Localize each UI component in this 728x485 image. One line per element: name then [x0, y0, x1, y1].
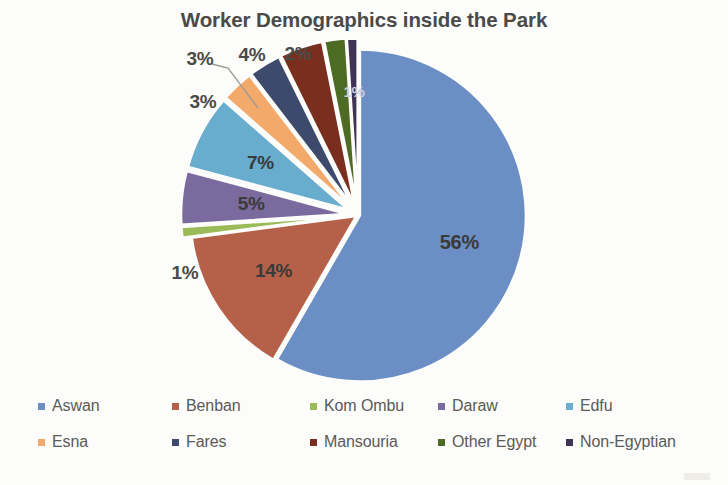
- legend-swatch-icon: [438, 403, 445, 410]
- legend-swatch-icon: [566, 439, 573, 446]
- slice-value-label: 2%: [285, 43, 312, 65]
- legend-item-mansouria[interactable]: Mansouria: [310, 430, 398, 454]
- legend-label: Non-Egyptian: [580, 433, 676, 451]
- legend-item-daraw[interactable]: Daraw: [438, 394, 498, 418]
- legend-item-edfu[interactable]: Edfu: [566, 394, 613, 418]
- slice-value-label: 1%: [172, 262, 199, 284]
- pie-chart-figure: Worker Demographics inside the Park 56%1…: [0, 0, 728, 485]
- slice-value-label: 7%: [247, 152, 274, 174]
- legend-swatch-icon: [172, 439, 179, 446]
- legend-item-fares[interactable]: Fares: [172, 430, 226, 454]
- legend-row: EsnaFaresMansouriaOther EgyptNon-Egyptia…: [0, 430, 728, 464]
- slice-value-label: 1%: [343, 83, 364, 100]
- slice-value-label: 3%: [187, 48, 214, 70]
- legend-row: AswanBenbanKom OmbuDarawEdfu: [0, 394, 728, 428]
- legend-label: Mansouria: [324, 433, 398, 451]
- legend-label: Fares: [186, 433, 226, 451]
- legend-swatch-icon: [438, 439, 445, 446]
- legend-item-non-egyptian[interactable]: Non-Egyptian: [566, 430, 676, 454]
- legend-label: Aswan: [52, 397, 100, 415]
- legend-item-other-egypt[interactable]: Other Egypt: [438, 430, 536, 454]
- chart-title: Worker Demographics inside the Park: [0, 8, 728, 32]
- legend-label: Benban: [186, 397, 241, 415]
- legend-swatch-icon: [172, 403, 179, 410]
- legend-swatch-icon: [310, 439, 317, 446]
- pie-plot-area: 56%14%1%5%7%3%3%4%2%1%: [0, 40, 728, 390]
- legend-swatch-icon: [310, 403, 317, 410]
- slice-value-label: 56%: [440, 231, 479, 254]
- legend-swatch-icon: [38, 439, 45, 446]
- legend-label: Daraw: [452, 397, 498, 415]
- scan-artifact: [684, 473, 710, 480]
- slice-value-label: 5%: [238, 193, 265, 215]
- legend-label: Esna: [52, 433, 88, 451]
- slice-value-label: 4%: [239, 44, 266, 66]
- legend-label: Other Egypt: [452, 433, 536, 451]
- legend-item-esna[interactable]: Esna: [38, 430, 88, 454]
- legend-item-aswan[interactable]: Aswan: [38, 394, 100, 418]
- legend-item-kom-ombu[interactable]: Kom Ombu: [310, 394, 404, 418]
- legend-swatch-icon: [566, 403, 573, 410]
- chart-legend: AswanBenbanKom OmbuDarawEdfu EsnaFaresMa…: [0, 392, 728, 470]
- legend-label: Edfu: [580, 397, 613, 415]
- slice-value-label: 3%: [190, 91, 217, 113]
- legend-label: Kom Ombu: [324, 397, 404, 415]
- legend-swatch-icon: [38, 403, 45, 410]
- legend-item-benban[interactable]: Benban: [172, 394, 241, 418]
- slice-value-label: 14%: [255, 260, 292, 282]
